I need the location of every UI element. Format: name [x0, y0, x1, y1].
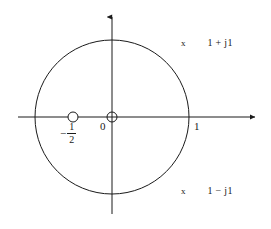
- pole-annotation-upper: x 1 + j1: [181, 37, 233, 48]
- fraction-denominator: 2: [68, 134, 75, 145]
- pole-zero-figure: 0 1 − 1 2 x 1 + j1 x 1 − j1: [0, 0, 271, 229]
- pole-value-upper: 1 + j1: [208, 37, 233, 48]
- zero-minus-half-label: − 1 2: [60, 122, 76, 145]
- pole-annotation-lower: x 1 − j1: [181, 185, 233, 196]
- fraction: 1 2: [67, 122, 76, 145]
- pole-value-lower: 1 − j1: [208, 185, 233, 196]
- unit-value-label: 1: [194, 121, 200, 132]
- pole-x-icon: x: [181, 38, 186, 48]
- fraction-numerator: 1: [68, 122, 75, 133]
- fraction-minus-sign: −: [60, 128, 66, 140]
- pole-x-icon: x: [181, 186, 186, 196]
- origin-label: 0: [100, 121, 106, 132]
